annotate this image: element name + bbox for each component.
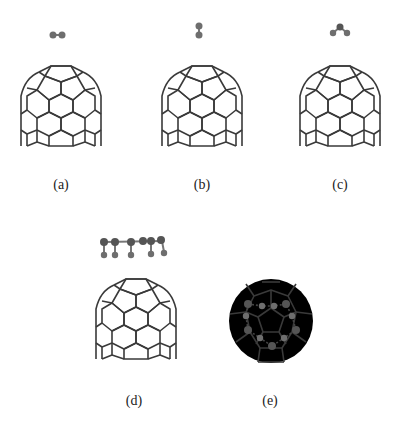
panel-label-c: (c) xyxy=(320,177,360,193)
fullerene-cage-icon xyxy=(94,279,180,361)
fullerene-cage-icon xyxy=(298,66,384,148)
chain-molecule-icon xyxy=(98,234,170,262)
triatomic-molecule-icon xyxy=(328,22,352,38)
fullerene-cage-icon xyxy=(160,66,246,148)
panel-label-b: (b) xyxy=(182,177,222,193)
panel-label-d: (d) xyxy=(114,393,154,409)
diatomic-molecule-vertical-icon xyxy=(194,21,204,41)
diatomic-molecule-horizontal-icon xyxy=(48,30,68,40)
fullerene-top-view-icon xyxy=(226,276,316,366)
fullerene-cage-icon xyxy=(19,66,105,148)
panel-label-e: (e) xyxy=(250,393,290,409)
panel-label-a: (a) xyxy=(41,177,81,193)
